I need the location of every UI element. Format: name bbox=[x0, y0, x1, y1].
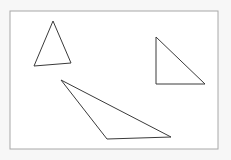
figure-root: Geometric figure: three triangles on a b… bbox=[0, 0, 231, 160]
bordered-panel bbox=[10, 11, 218, 149]
triangles-figure-canvas bbox=[0, 0, 231, 160]
